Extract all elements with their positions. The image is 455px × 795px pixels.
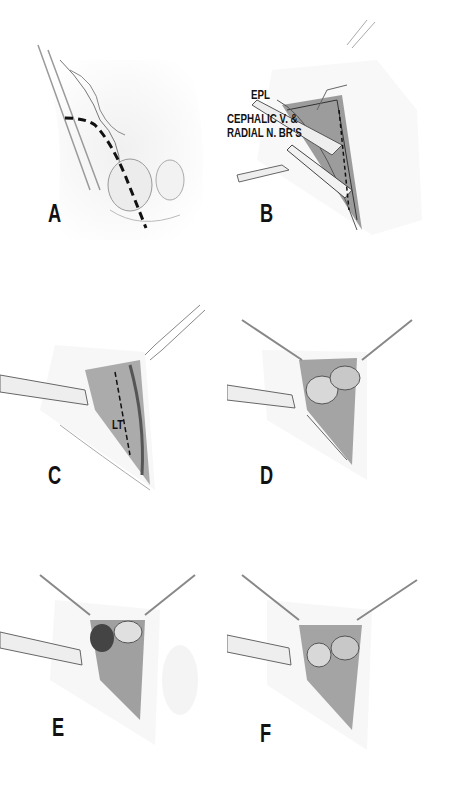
panel-letter-a: A [48,198,61,229]
final-exposure-illustration [227,570,455,795]
capsule-opened-illustration [227,290,455,530]
capsular-incision-illustration [0,290,227,530]
panel-letter-e: E [52,712,64,743]
panel-a: A [0,0,227,260]
label-cephalic-vein: CEPHALIC V. & [227,112,298,126]
panel-b: EPL CEPHALIC V. & RADIAL N. BR'S B [227,0,454,260]
panel-c: LT C [0,290,227,530]
panel-letter-f: F [260,718,271,749]
panel-e: E [0,570,227,795]
panel-d: D [227,290,454,530]
label-lt: LT [112,418,123,432]
panel-letter-b: B [260,198,273,229]
wrist-incision-illustration [0,0,227,260]
label-radial-nerve-branches: RADIAL N. BR'S [227,126,302,140]
bone-exposure-illustration [0,570,227,795]
panel-f: F [227,570,454,795]
label-epl: EPL [251,88,270,102]
panel-letter-d: D [260,460,273,491]
panel-letter-c: C [48,460,61,491]
